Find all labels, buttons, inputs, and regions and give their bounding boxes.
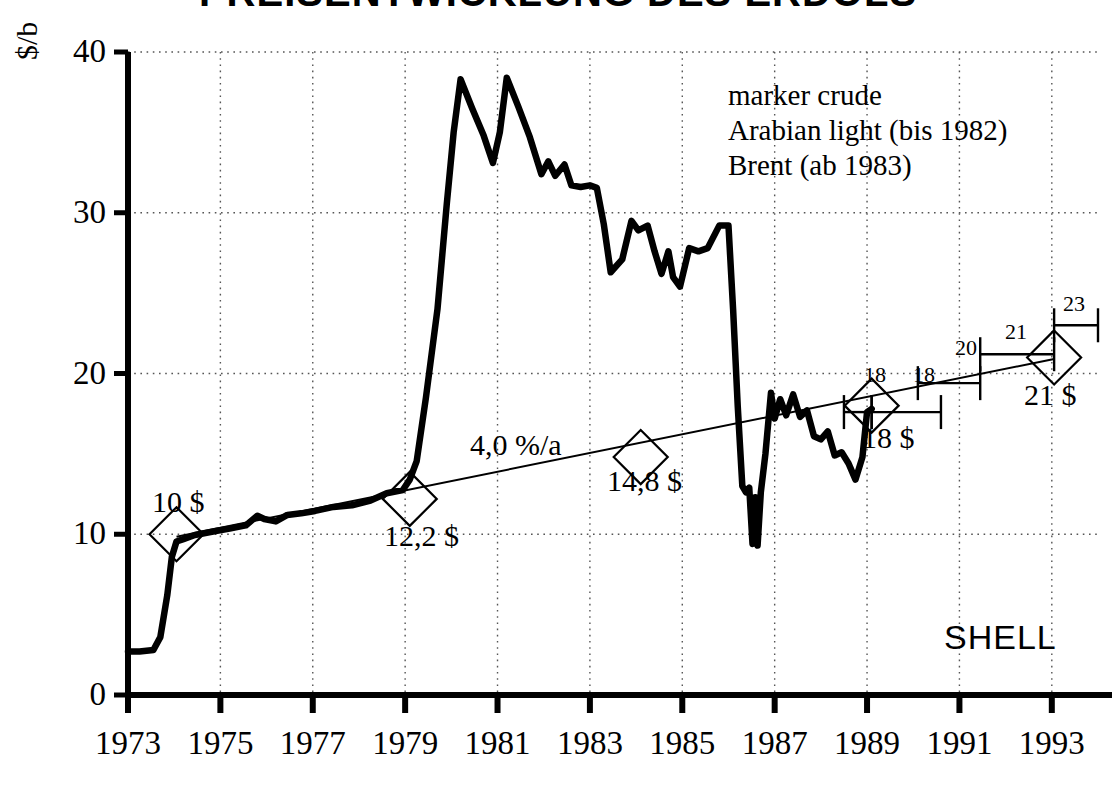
range-label-1991: 20: [955, 337, 977, 359]
benchmark-diamond-markers: [150, 330, 1082, 561]
range-label-1989-low: 18: [864, 364, 886, 386]
range-label-1993: 23: [1063, 293, 1085, 315]
range-label-1989-high: 18: [913, 364, 935, 386]
range-label-1992: 21: [1005, 321, 1027, 343]
legend-line-1: marker crude: [728, 78, 1007, 113]
shell-logo: SHELL: [944, 618, 1057, 657]
marker-label-1984: 14,8 $: [607, 466, 682, 496]
marker-label-1974: 10 $: [152, 487, 205, 517]
marker-label-1979: 12,2 $: [384, 521, 459, 551]
oil-price-chart: PREISENTWICKLUNG DES ERDÖLS $/b 01020304…: [0, 0, 1116, 788]
legend: marker crude Arabian light (bis 1982) Br…: [728, 78, 1007, 183]
legend-line-2: Arabian light (bis 1982): [728, 113, 1007, 148]
marker-label-1993: 21 $: [1024, 380, 1077, 410]
growth-rate-annotation: 4,0 %/a: [470, 430, 562, 460]
legend-line-3: Brent (ab 1983): [728, 148, 1007, 183]
marker-label-1989: 18 $: [862, 423, 915, 453]
